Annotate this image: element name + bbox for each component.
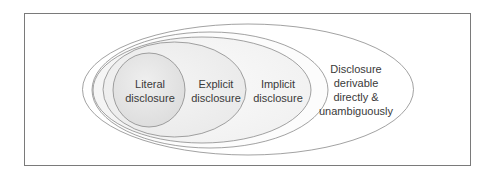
label-line: disclosure <box>246 91 310 105</box>
label-literal-disclosure: Literal disclosure <box>120 77 180 105</box>
label-line: Explicit <box>186 77 246 91</box>
label-implicit-disclosure: Implicit disclosure <box>246 77 310 105</box>
label-line: disclosure <box>186 91 246 105</box>
label-line: disclosure <box>120 91 180 105</box>
label-explicit-disclosure: Explicit disclosure <box>186 77 246 105</box>
label-line: directly & <box>315 90 397 104</box>
label-line: Disclosure <box>315 62 397 76</box>
label-line: derivable <box>315 76 397 90</box>
label-line: Literal <box>120 77 180 91</box>
label-line: Implicit <box>246 77 310 91</box>
label-direct-unambiguous-disclosure: Disclosure derivable directly & unambigu… <box>315 62 397 118</box>
label-line: unambiguously <box>315 104 397 118</box>
